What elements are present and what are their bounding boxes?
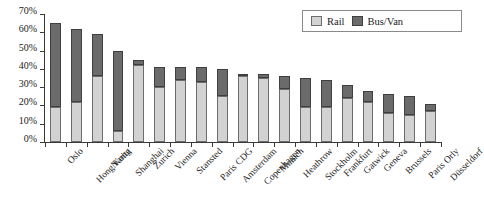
y-axis-tick-label: 30% <box>19 79 37 89</box>
bar-segment-rail <box>238 76 249 142</box>
bar-segment-rail <box>154 87 165 142</box>
bar-segment-bus-van <box>217 69 228 96</box>
bar-segment-rail <box>300 107 311 142</box>
legend-item-bus-van: Bus/Van <box>352 16 404 27</box>
bar-segment-rail <box>71 102 82 142</box>
bar-munich <box>258 14 269 142</box>
y-axis-tick-mark <box>40 32 44 33</box>
x-axis-label-group: OsloHong KongNaritaShanghaiZurichViennaS… <box>45 146 445 216</box>
bar-narita <box>92 14 103 142</box>
legend-label-bus-van: Bus/Van <box>368 16 404 27</box>
y-axis-tick-mark <box>40 124 44 125</box>
chart-legend: Rail Bus/Van <box>302 10 462 32</box>
bar-zurich <box>133 14 144 142</box>
y-axis-tick-label: 50% <box>19 43 37 53</box>
y-axis-tick-mark <box>40 51 44 52</box>
bar-segment-rail <box>321 107 332 142</box>
bar-segment-bus-van <box>258 74 269 78</box>
bar-segment-bus-van <box>342 85 353 98</box>
y-axis-tick-label: 60% <box>19 24 37 34</box>
y-axis-tick-label: 40% <box>19 61 37 71</box>
y-axis-tick-label: 0% <box>24 134 37 144</box>
bar-segment-rail <box>258 78 269 142</box>
bar-amsterdam <box>217 14 228 142</box>
bar-segment-rail <box>196 82 207 142</box>
bar-segment-bus-van <box>113 51 124 131</box>
bar-d-sseldorf <box>425 14 436 142</box>
bar-segment-rail <box>363 102 374 142</box>
bar-segment-rail <box>404 115 415 142</box>
y-axis-tick-mark <box>40 142 44 143</box>
y-axis-tick-label: 10% <box>19 116 37 126</box>
bar-segment-bus-van <box>404 96 415 114</box>
bar-segment-bus-van <box>154 67 165 87</box>
y-axis-tick-label: 20% <box>19 97 37 107</box>
bar-segment-rail <box>50 107 61 142</box>
rail-swatch-icon <box>311 16 322 26</box>
bar-segment-bus-van <box>383 94 394 112</box>
bar-vienna <box>154 14 165 142</box>
x-axis-line <box>44 142 442 143</box>
bar-gatwick <box>342 14 353 142</box>
bar-segment-rail <box>133 65 144 142</box>
bar-stansted <box>175 14 186 142</box>
bar-segment-bus-van <box>321 80 332 107</box>
bar-segment-bus-van <box>363 91 374 102</box>
bar-segment-rail <box>279 89 290 142</box>
y-axis-tick-mark <box>40 14 44 15</box>
x-axis-label-oslo: Oslo <box>66 146 86 166</box>
bar-segment-bus-van <box>300 78 311 107</box>
bar-segment-rail <box>175 80 186 142</box>
bar-stockholm <box>300 14 311 142</box>
y-axis-tick-mark <box>40 69 44 70</box>
bar-geneva <box>363 14 374 142</box>
bar-segment-rail <box>342 98 353 142</box>
bus-van-swatch-icon <box>352 16 363 26</box>
bar-segment-bus-van <box>92 34 103 76</box>
plot-area <box>45 14 441 142</box>
bar-segment-rail <box>217 96 228 142</box>
legend-item-rail: Rail <box>311 16 345 27</box>
bar-segment-bus-van <box>425 104 436 111</box>
bar-segment-rail <box>383 113 394 142</box>
bar-paris-orly <box>404 14 415 142</box>
bar-hong-kong <box>71 14 82 142</box>
x-axis-label-narita: Narita <box>109 146 133 170</box>
bar-segment-bus-van <box>50 23 61 107</box>
bar-segment-rail <box>113 131 124 142</box>
bar-segment-bus-van <box>133 60 144 65</box>
bar-paris-cdg <box>196 14 207 142</box>
bar-oslo <box>50 14 61 142</box>
y-axis-tick-mark <box>40 105 44 106</box>
bar-segment-rail <box>425 111 436 142</box>
bar-brussels <box>383 14 394 142</box>
bar-segment-bus-van <box>196 67 207 82</box>
bar-copenhagen <box>238 14 249 142</box>
bar-frankfurt <box>321 14 332 142</box>
bar-segment-bus-van <box>238 74 249 76</box>
bar-shanghai <box>113 14 124 142</box>
legend-label-rail: Rail <box>327 16 345 27</box>
bar-segment-bus-van <box>71 29 82 102</box>
y-axis-tick-label: 70% <box>19 6 37 16</box>
bar-segment-bus-van <box>175 67 186 80</box>
bar-segment-rail <box>92 76 103 142</box>
bar-segment-bus-van <box>279 76 290 89</box>
bar-heathrow <box>279 14 290 142</box>
y-axis-tick-mark <box>40 87 44 88</box>
